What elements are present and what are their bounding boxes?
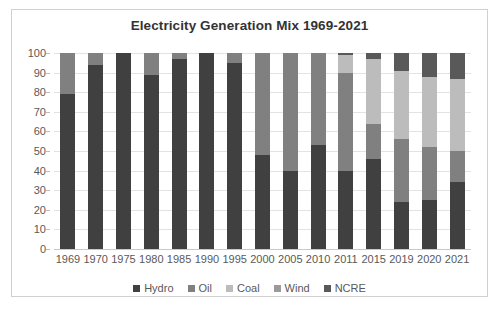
bar-segment-oil[interactable] xyxy=(450,151,465,182)
bar-segment-hydro[interactable] xyxy=(338,171,353,249)
bar-segment-coal[interactable] xyxy=(366,59,381,124)
stacked-bar[interactable] xyxy=(394,53,409,249)
stacked-bar[interactable] xyxy=(422,53,437,249)
bar-column[interactable] xyxy=(443,53,471,249)
x-axis-tick-label: 2019 xyxy=(388,253,416,271)
x-axis-tick-label: 1995 xyxy=(221,253,249,271)
y-axis-tick-label: 100 xyxy=(28,47,46,59)
legend-label: Wind xyxy=(285,282,310,294)
stacked-bar[interactable] xyxy=(172,53,187,249)
y-axis-tick-mark xyxy=(46,112,50,113)
bar-segment-hydro[interactable] xyxy=(255,155,270,249)
bar-column[interactable] xyxy=(360,53,388,249)
stacked-bar[interactable] xyxy=(88,53,103,249)
stacked-bar[interactable] xyxy=(283,53,298,249)
bar-segment-ncre[interactable] xyxy=(422,53,437,77)
bar-series-group xyxy=(54,53,471,249)
legend-item-oil[interactable]: Oil xyxy=(188,282,212,294)
bar-segment-hydro[interactable] xyxy=(450,182,465,249)
bar-segment-hydro[interactable] xyxy=(394,202,409,249)
bar-segment-hydro[interactable] xyxy=(88,65,103,249)
stacked-bar[interactable] xyxy=(144,53,159,249)
bar-segment-ncre[interactable] xyxy=(450,53,465,78)
x-axis-tick-label: 2005 xyxy=(276,253,304,271)
bar-segment-oil[interactable] xyxy=(283,53,298,171)
bar-column[interactable] xyxy=(193,53,221,249)
x-axis-tick-label: 2015 xyxy=(360,253,388,271)
legend-item-wind[interactable]: Wind xyxy=(274,282,310,294)
bar-segment-coal[interactable] xyxy=(450,79,465,152)
y-axis-tick-label: 60 xyxy=(34,125,46,137)
bar-column[interactable] xyxy=(388,53,416,249)
legend-item-ncre[interactable]: NCRE xyxy=(324,282,366,294)
x-axis-tick-label: 2000 xyxy=(249,253,277,271)
bar-column[interactable] xyxy=(54,53,82,249)
bar-column[interactable] xyxy=(165,53,193,249)
stacked-bar[interactable] xyxy=(311,53,326,249)
bar-segment-coal[interactable] xyxy=(394,71,409,140)
stacked-bar[interactable] xyxy=(366,53,381,249)
bar-segment-hydro[interactable] xyxy=(60,94,75,249)
bar-column[interactable] xyxy=(110,53,138,249)
bar-segment-oil[interactable] xyxy=(227,53,242,63)
y-axis-tick-mark xyxy=(46,53,50,54)
bar-column[interactable] xyxy=(415,53,443,249)
bar-column[interactable] xyxy=(249,53,277,249)
stacked-bar[interactable] xyxy=(255,53,270,249)
bar-column[interactable] xyxy=(332,53,360,249)
bar-segment-oil[interactable] xyxy=(311,53,326,145)
legend-item-hydro[interactable]: Hydro xyxy=(133,282,173,294)
bar-segment-oil[interactable] xyxy=(394,139,409,202)
y-axis-tick-mark xyxy=(46,73,50,74)
bar-segment-hydro[interactable] xyxy=(283,171,298,249)
stacked-bar[interactable] xyxy=(60,53,75,249)
legend-item-coal[interactable]: Coal xyxy=(226,282,260,294)
stacked-bar[interactable] xyxy=(199,53,214,249)
y-axis-tick-mark xyxy=(46,190,50,191)
bar-column[interactable] xyxy=(221,53,249,249)
legend-swatch-icon xyxy=(133,285,140,292)
chart-title: Electricity Generation Mix 1969-2021 xyxy=(12,18,487,33)
bar-segment-hydro[interactable] xyxy=(199,53,214,249)
y-axis-tick-label: 20 xyxy=(34,204,46,216)
bar-segment-hydro[interactable] xyxy=(227,63,242,249)
x-axis-tick-label: 2011 xyxy=(332,253,360,271)
legend-label: Oil xyxy=(199,282,212,294)
y-axis-tick-label: 50 xyxy=(34,145,46,157)
stacked-bar[interactable] xyxy=(116,53,131,249)
y-axis-tick-label: 40 xyxy=(34,165,46,177)
bar-column[interactable] xyxy=(304,53,332,249)
bar-segment-coal[interactable] xyxy=(338,55,353,73)
y-axis-tick-label: 70 xyxy=(34,106,46,118)
bar-segment-coal[interactable] xyxy=(422,77,437,148)
bar-segment-hydro[interactable] xyxy=(311,145,326,249)
bar-column[interactable] xyxy=(137,53,165,249)
stacked-bar[interactable] xyxy=(450,53,465,249)
bar-column[interactable] xyxy=(82,53,110,249)
bar-segment-hydro[interactable] xyxy=(144,75,159,249)
y-axis: 0102030405060708090100 xyxy=(12,53,50,249)
bar-segment-oil[interactable] xyxy=(338,73,353,171)
bar-segment-ncre[interactable] xyxy=(394,53,409,71)
x-axis-tick-label: 2020 xyxy=(415,253,443,271)
legend-label: NCRE xyxy=(335,282,366,294)
plot-area xyxy=(54,53,471,249)
stacked-bar[interactable] xyxy=(227,53,242,249)
bar-segment-oil[interactable] xyxy=(60,53,75,94)
bar-segment-hydro[interactable] xyxy=(422,200,437,249)
legend-label: Coal xyxy=(237,282,260,294)
x-axis-tick-label: 1985 xyxy=(165,253,193,271)
bar-segment-hydro[interactable] xyxy=(366,159,381,249)
bar-segment-oil[interactable] xyxy=(144,53,159,75)
bar-segment-oil[interactable] xyxy=(422,147,437,200)
bar-segment-oil[interactable] xyxy=(88,53,103,65)
y-axis-tick-label: 80 xyxy=(34,86,46,98)
bar-segment-hydro[interactable] xyxy=(116,53,131,249)
x-axis-tick-label: 2010 xyxy=(304,253,332,271)
bar-segment-oil[interactable] xyxy=(366,124,381,159)
bar-segment-hydro[interactable] xyxy=(172,59,187,249)
bar-segment-oil[interactable] xyxy=(255,53,270,155)
legend-swatch-icon xyxy=(226,285,233,292)
bar-column[interactable] xyxy=(276,53,304,249)
stacked-bar[interactable] xyxy=(338,53,353,249)
